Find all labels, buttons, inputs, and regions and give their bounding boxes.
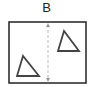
diagram-canvas [0,0,93,87]
triangle-lower-left [17,56,39,76]
arrow-down-icon [46,78,50,82]
triangle-upper-right [58,31,79,51]
arrow-up-icon [46,23,50,27]
